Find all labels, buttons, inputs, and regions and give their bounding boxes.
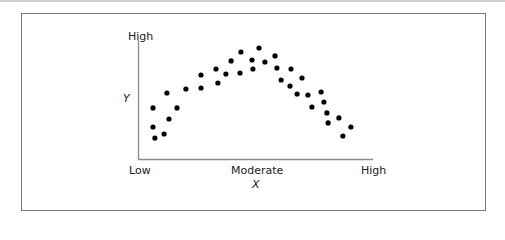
data-point: [162, 131, 167, 136]
data-point: [198, 72, 203, 77]
data-point: [340, 133, 345, 138]
data-point: [250, 66, 255, 71]
data-point: [174, 105, 179, 110]
x-tick-moderate: Moderate: [231, 165, 283, 176]
x-axis-label: X: [252, 179, 260, 190]
data-point: [256, 45, 261, 50]
data-point: [309, 104, 314, 109]
data-point: [279, 77, 284, 82]
data-point: [198, 85, 203, 90]
data-point: [288, 66, 293, 71]
data-point: [299, 75, 304, 80]
data-point: [324, 110, 329, 115]
x-tick-high: High: [361, 165, 386, 176]
data-point: [164, 90, 169, 95]
data-point: [150, 105, 155, 110]
data-point: [152, 136, 157, 141]
data-point: [272, 53, 277, 58]
data-point: [215, 80, 220, 85]
data-point: [223, 71, 228, 76]
data-point: [305, 92, 310, 97]
data-point: [274, 65, 279, 70]
y-tick-high: High: [128, 31, 153, 42]
data-point: [295, 91, 300, 96]
data-point: [336, 115, 341, 120]
data-point: [287, 84, 292, 89]
data-point: [249, 57, 254, 62]
data-point: [238, 49, 243, 54]
y-axis-label: Y: [123, 93, 130, 104]
data-point: [150, 124, 155, 129]
data-point: [348, 124, 353, 129]
data-point: [183, 86, 188, 91]
data-point: [321, 99, 326, 104]
data-point: [237, 70, 242, 75]
data-point: [326, 120, 331, 125]
data-point: [262, 59, 267, 64]
data-point: [213, 66, 218, 71]
data-point: [229, 58, 234, 63]
data-point: [166, 116, 171, 121]
data-points: [150, 45, 353, 140]
x-tick-low: Low: [129, 165, 151, 176]
data-point: [319, 89, 324, 94]
